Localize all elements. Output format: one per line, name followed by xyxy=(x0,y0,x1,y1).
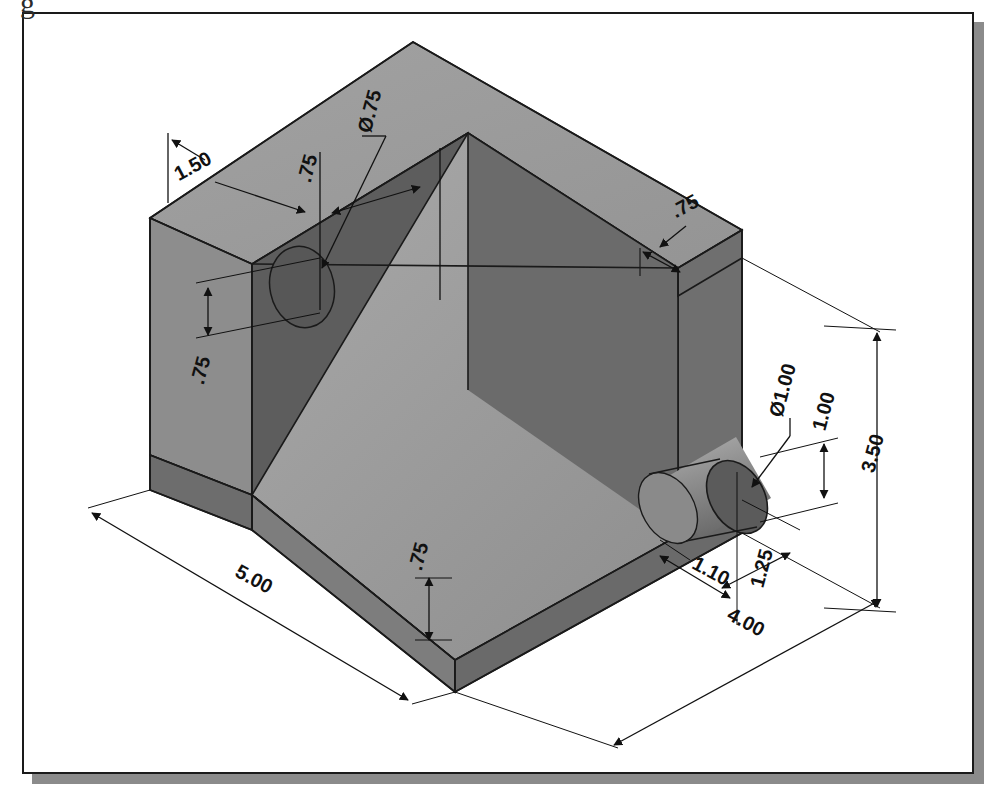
dim-label-1-25: 1.25 xyxy=(746,547,777,590)
leader-dia100-d xyxy=(752,436,790,487)
dim-label-3-50: 3.50 xyxy=(857,432,888,475)
isometric-drawing: 1.50 .75 Ø.75 .75 .75 Ø1.00 1.00 3.50 1.… xyxy=(0,0,990,811)
screenshot-page: g xyxy=(0,0,990,811)
dim-label-4-00: 4.00 xyxy=(724,603,769,641)
ext-350-top-diag xyxy=(742,258,880,332)
ext-100-a xyxy=(760,438,838,457)
ext-400-a xyxy=(455,692,618,748)
dim-label-1-00: 1.00 xyxy=(808,390,839,433)
dim-label-1-10: 1.10 xyxy=(689,552,734,590)
dim-label-dia-100: Ø1.00 xyxy=(765,361,800,419)
ext-500-a xyxy=(88,490,150,508)
ext-100-b xyxy=(760,503,838,522)
part-solid xyxy=(150,42,780,692)
dim-label-5-00: 5.00 xyxy=(232,560,277,598)
ext-500-b xyxy=(412,692,455,704)
ext-350-a xyxy=(824,326,896,330)
